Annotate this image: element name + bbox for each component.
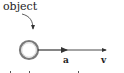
object-label: object <box>3 0 38 13</box>
motion-diagram: object a v <box>0 0 124 73</box>
pointer-arrow <box>22 14 33 29</box>
cropped-text-fragments <box>10 71 79 73</box>
acceleration-label: a <box>63 55 69 65</box>
velocity-label: v <box>100 55 107 65</box>
object-circle <box>20 41 38 59</box>
